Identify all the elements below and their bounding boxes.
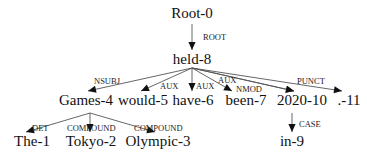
edge-label: PUNCT: [297, 76, 326, 86]
edge-label: AUX: [196, 81, 214, 91]
edge-aux: [188, 68, 195, 91]
node-root: Root-0: [171, 5, 213, 21]
node-have: have-6: [173, 92, 214, 108]
edge-labels-layer: ROOTNSUBJAUXAUXAUXNMODPUNCTDETCOMPOUNDCO…: [32, 32, 326, 133]
node-held: held-8: [173, 51, 211, 67]
arrowhead-icon: [188, 42, 195, 50]
edge-label: AUX: [160, 81, 178, 91]
edge-label: DET: [32, 123, 49, 133]
node-tokyo: Tokyo-2: [66, 133, 117, 149]
dependency-tree: ROOTNSUBJAUXAUXAUXNMODPUNCTDETCOMPOUNDCO…: [0, 0, 367, 165]
node-would: would-5: [118, 92, 168, 108]
node-olympic: Olympic-3: [126, 133, 191, 149]
edge-label: NSUBJ: [94, 76, 121, 86]
arrowhead-icon: [188, 83, 195, 91]
node-games: Games-4: [59, 92, 114, 108]
node-in: in-9: [280, 133, 304, 149]
edge-root: [188, 24, 195, 50]
arrowhead-icon: [288, 124, 295, 132]
edge-label: COMPOUND: [134, 123, 183, 133]
edge-label: COMPOUND: [67, 123, 116, 133]
edge-label: AUX: [218, 75, 236, 85]
edges-layer: [26, 24, 342, 133]
node-punct: .-11: [337, 92, 360, 108]
node-the: The-1: [14, 133, 50, 149]
node-y2020: 2020-10: [277, 92, 327, 108]
edge-label: CASE: [299, 119, 321, 129]
node-been: been-7: [226, 92, 267, 108]
edge-label: ROOT: [203, 32, 227, 42]
edge-case: [288, 113, 295, 132]
